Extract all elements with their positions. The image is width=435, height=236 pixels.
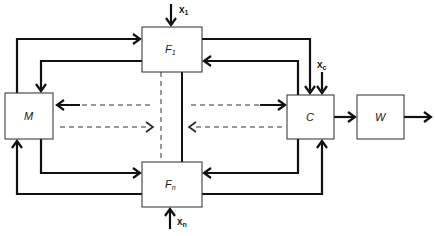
input-xc-label: xc [317, 59, 327, 71]
input-xn-label: xn [177, 216, 187, 228]
svg-text:C: C [306, 111, 314, 123]
block-f1: F1 [142, 27, 202, 72]
block-c: C [287, 95, 334, 139]
svg-text:M: M [24, 110, 34, 122]
flow-c-to-w [334, 112, 355, 122]
dashed-flow-bus-to-c [191, 100, 285, 110]
input-xn-arrow [165, 209, 175, 229]
dashed-flow-m-to-bus [60, 122, 153, 132]
flow-f1-to-m [36, 61, 142, 91]
flow-c-to-fn [204, 139, 298, 178]
flow-m-to-fn [41, 139, 140, 178]
flow-w-to-output [404, 112, 431, 122]
block-m: M [5, 93, 53, 139]
input-x1-arrow [166, 4, 176, 25]
input-xc-arrow [317, 72, 327, 93]
flow-c-to-f1 [204, 56, 298, 95]
flow-fn-to-c [202, 141, 327, 194]
block-diagram: x1 xc xn F1 Fn M C W [0, 0, 435, 236]
flow-fn-to-m [12, 141, 142, 194]
input-x1-label: x1 [179, 4, 189, 16]
dashed-flow-bus-to-m [57, 100, 150, 110]
block-w: W [357, 95, 404, 139]
dashed-flow-c-to-bus [189, 122, 282, 132]
flow-m-to-f1 [17, 34, 140, 93]
svg-text:W: W [375, 111, 387, 123]
block-fn: Fn [142, 162, 202, 207]
